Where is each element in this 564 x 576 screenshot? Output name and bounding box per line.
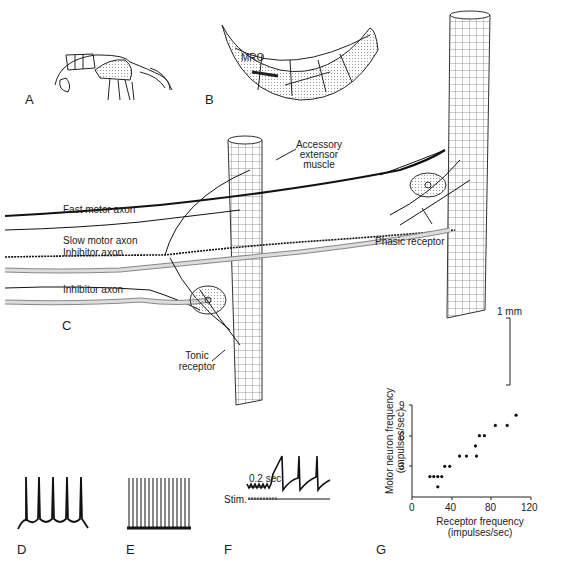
trace-e bbox=[127, 478, 191, 528]
mro-label: MRO bbox=[241, 52, 264, 63]
data-point bbox=[483, 434, 486, 437]
y-axis-title: Motor neuron frequency (impulses/sec) bbox=[384, 376, 406, 506]
data-point bbox=[436, 485, 439, 488]
crayfish-illustration bbox=[55, 54, 172, 100]
xtick-0: 0 bbox=[409, 502, 415, 513]
data-point bbox=[458, 455, 461, 458]
data-point bbox=[465, 455, 468, 458]
data-point bbox=[443, 465, 446, 468]
panel-label-g: G bbox=[376, 542, 386, 557]
y-axis-title-line2: (impulses/sec) bbox=[395, 376, 406, 506]
data-point bbox=[506, 424, 509, 427]
data-point bbox=[474, 444, 477, 447]
xtick-80: 80 bbox=[485, 502, 496, 513]
data-point bbox=[475, 455, 478, 458]
phasic-receptor-label: Phasic receptor bbox=[375, 236, 444, 247]
muscle-cylinder-right bbox=[447, 11, 490, 318]
scatter-axes bbox=[409, 405, 531, 500]
data-point bbox=[448, 465, 451, 468]
scatter-points bbox=[428, 414, 517, 489]
data-point bbox=[428, 475, 431, 478]
accessory-label-line3: muscle bbox=[289, 160, 349, 170]
panel-label-d: D bbox=[17, 542, 26, 557]
stim-label: Stim. bbox=[224, 494, 247, 505]
tonic-label-line1: Tonic bbox=[172, 350, 222, 361]
x-axis-title-line2: (impulses/sec) bbox=[425, 527, 535, 538]
data-point bbox=[436, 475, 439, 478]
tonic-label-line2: receptor bbox=[172, 361, 222, 372]
x-axis-title-line1: Receptor frequency bbox=[425, 516, 535, 527]
inhibitor-axon-label-2: Inhibitor axon bbox=[63, 284, 123, 295]
data-point bbox=[440, 475, 443, 478]
fast-motor-axon-label: Fast motor axon bbox=[63, 204, 135, 215]
phasic-pointer bbox=[422, 208, 432, 224]
panel-label-b: B bbox=[205, 92, 214, 107]
muscle-cylinder-left bbox=[228, 136, 262, 405]
slow-motor-axon-label: Slow motor axon bbox=[63, 235, 137, 246]
time-scale-label: 0.2 sec bbox=[249, 473, 281, 484]
panel-label-f: F bbox=[224, 542, 232, 557]
panel-label-e: E bbox=[126, 542, 135, 557]
trace-d bbox=[18, 477, 88, 529]
phasic-receptor-cell bbox=[410, 173, 446, 197]
data-point bbox=[494, 424, 497, 427]
panel-label-c: C bbox=[62, 318, 71, 333]
data-point bbox=[478, 434, 481, 437]
panel-label-a: A bbox=[25, 92, 34, 107]
x-axis-title: Receptor frequency (impulses/sec) bbox=[425, 516, 535, 538]
xtick-120: 120 bbox=[521, 502, 538, 513]
scale-bar-label: 1 mm bbox=[497, 306, 522, 317]
tonic-receptor-cell bbox=[190, 286, 226, 314]
inhibitor-axon-label-1: Inhibitor axon bbox=[63, 247, 123, 258]
data-point bbox=[432, 475, 435, 478]
data-point bbox=[515, 414, 518, 417]
xtick-40: 40 bbox=[445, 502, 456, 513]
accessory-extensor-label: Accessory extensor muscle bbox=[289, 140, 349, 170]
y-axis-title-line1: Motor neuron frequency bbox=[384, 376, 395, 506]
tonic-receptor-label: Tonic receptor bbox=[172, 350, 222, 372]
